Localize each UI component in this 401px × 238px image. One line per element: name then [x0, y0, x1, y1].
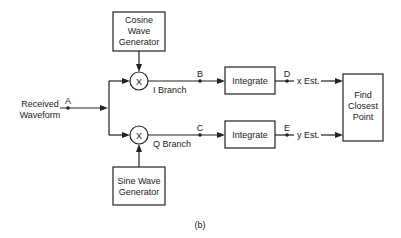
bottom-mixer-arrow-icon [122, 132, 130, 138]
y-est-label: y Est. [297, 130, 320, 140]
block-diagram: Received Waveform A Cosine Wave Generato… [0, 0, 401, 238]
sine-generator-box [113, 167, 165, 205]
node-e-dot [285, 133, 289, 137]
figure-caption: (b) [195, 220, 206, 230]
cosine-label-line3: Generator [119, 37, 160, 47]
decision-line2: Closest [348, 101, 379, 111]
cosine-label-line2: Wave [128, 26, 151, 36]
decision-line1: Find [354, 90, 372, 100]
integrate-bottom-arrow-icon [217, 132, 225, 138]
node-a-dot [66, 106, 70, 110]
node-b-dot [198, 79, 202, 83]
sine-label-line2: Generator [119, 187, 160, 197]
node-a-label: A [65, 96, 71, 106]
node-e-label: E [284, 123, 290, 133]
node-b-label: B [197, 69, 203, 79]
received-label-line2: Waveform [20, 110, 61, 120]
node-d-label: D [284, 69, 291, 79]
node-c-label: C [197, 123, 204, 133]
cosine-arrow-icon [136, 64, 142, 72]
cosine-label-line1: Cosine [125, 15, 153, 25]
sine-arrow-icon [136, 144, 142, 152]
i-branch-label: I Branch [153, 85, 187, 95]
q-branch-label: Q Branch [153, 139, 191, 149]
x-est-label: x Est. [297, 76, 320, 86]
sine-label-line1: Sine Wave [117, 176, 160, 186]
y-est-arrow-icon [335, 132, 343, 138]
node-c-dot [198, 133, 202, 137]
input-arrow-icon [100, 105, 108, 111]
top-mixer-arrow-icon [122, 78, 130, 84]
decision-line3: Point [353, 112, 374, 122]
x-est-arrow-icon [335, 78, 343, 84]
received-label-line1: Received [21, 99, 59, 109]
node-d-dot [285, 79, 289, 83]
top-mixer-symbol: X [136, 77, 142, 87]
integrate-top-arrow-icon [217, 78, 225, 84]
integrate-top-label: Integrate [232, 76, 268, 86]
integrate-bottom-label: Integrate [232, 130, 268, 140]
bottom-mixer-symbol: X [136, 131, 142, 141]
